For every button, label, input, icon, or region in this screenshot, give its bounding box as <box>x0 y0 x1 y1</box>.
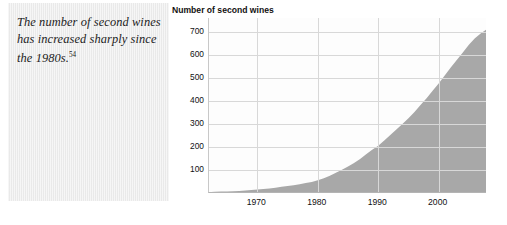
x-axis-tick-label: 1990 <box>357 197 397 207</box>
gridline-horizontal <box>209 78 486 79</box>
chart-panel: Number of second wines 10020030040050060… <box>169 3 499 209</box>
gridline-horizontal <box>209 32 486 33</box>
area-series <box>209 18 486 193</box>
gridline-horizontal <box>209 101 486 102</box>
x-axis-tick-label: 1980 <box>297 197 337 207</box>
x-axis-tick-label: 2000 <box>418 197 458 207</box>
caption-text: The number of second wines has increased… <box>17 14 167 67</box>
gridline-vertical <box>318 18 319 192</box>
gridline-vertical <box>378 18 379 192</box>
gridline-vertical <box>257 18 258 192</box>
area-series-path <box>209 29 486 193</box>
figure-root: The number of second wines has increased… <box>0 0 507 225</box>
gridline-vertical <box>439 18 440 192</box>
gridline-horizontal <box>209 170 486 171</box>
caption-panel: The number of second wines has increased… <box>8 3 169 201</box>
caption-body: The number of second wines has increased… <box>17 15 161 65</box>
footnote-marker: 54 <box>69 51 76 59</box>
gridline-horizontal <box>209 147 486 148</box>
gridline-horizontal <box>209 55 486 56</box>
x-axis-tick-label: 1970 <box>236 197 276 207</box>
plot-area <box>208 18 486 193</box>
gridline-horizontal <box>209 124 486 125</box>
